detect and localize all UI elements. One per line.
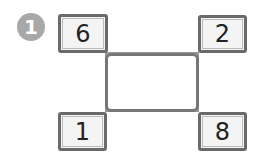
corner-box-top-left: 6	[58, 14, 108, 53]
problem-number-badge: 1	[17, 13, 45, 41]
answer-box[interactable]	[105, 53, 199, 112]
corner-box-top-right: 2	[198, 15, 247, 53]
corner-box-bottom-left: 1	[58, 112, 107, 151]
corner-box-bottom-right: 8	[198, 112, 247, 151]
